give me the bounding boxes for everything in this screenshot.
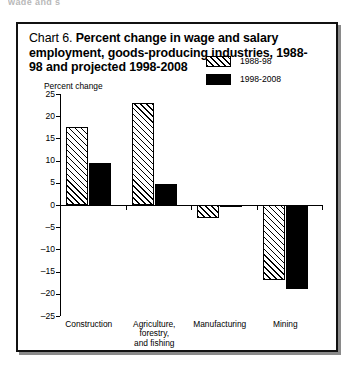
y-tick-mark bbox=[56, 272, 60, 273]
y-tick-mark bbox=[56, 138, 60, 139]
legend-item: 1998-2008 bbox=[206, 70, 281, 88]
y-tick-label: –20 bbox=[41, 288, 55, 298]
plot-area: 2520151050–5–10–15–20–25 bbox=[60, 94, 322, 316]
chart-legend: 1988-98 1998-2008 bbox=[206, 52, 281, 88]
bar-1998-2008 bbox=[286, 205, 308, 289]
bar-1998-2008 bbox=[89, 163, 111, 205]
y-tick-label: 20 bbox=[45, 111, 55, 121]
y-tick-label: –15 bbox=[41, 266, 55, 276]
y-tick-mark bbox=[56, 183, 60, 184]
legend-swatch-1988-98 bbox=[206, 56, 231, 67]
x-tick-mark bbox=[126, 205, 127, 210]
y-tick-label: –25 bbox=[41, 311, 55, 321]
bar-1988-98 bbox=[263, 205, 285, 280]
legend-label-1988-98: 1988-98 bbox=[240, 56, 272, 66]
y-tick-label: 0 bbox=[50, 200, 55, 210]
legend-item: 1988-98 bbox=[206, 52, 281, 70]
y-tick-label: 10 bbox=[45, 155, 55, 165]
bar-1988-98 bbox=[132, 103, 154, 205]
y-tick-label: 25 bbox=[45, 89, 55, 99]
y-tick-mark bbox=[56, 294, 60, 295]
y-tick-mark bbox=[56, 227, 60, 228]
y-tick-mark bbox=[56, 316, 60, 317]
y-tick-label: –5 bbox=[45, 222, 55, 232]
chart-figure-box: Chart 6. Percent change in wage and sala… bbox=[16, 22, 338, 352]
y-tick-label: 5 bbox=[50, 177, 55, 187]
x-tick-mark bbox=[322, 205, 323, 210]
legend-label-1998-2008: 1998-2008 bbox=[240, 74, 281, 84]
x-category-label: Mining bbox=[243, 320, 327, 329]
legend-swatch-1998-2008 bbox=[206, 74, 231, 85]
bar-1988-98 bbox=[66, 127, 88, 205]
x-tick-mark bbox=[191, 205, 192, 210]
x-tick-mark bbox=[257, 205, 258, 210]
y-tick-mark bbox=[56, 116, 60, 117]
bar-1998-2008 bbox=[155, 184, 177, 205]
y-tick-mark bbox=[56, 249, 60, 250]
scan-text-fragment: wage and s bbox=[8, 0, 128, 5]
x-tick-mark bbox=[60, 205, 61, 210]
y-tick-mark bbox=[56, 161, 60, 162]
chart-number: Chart 6. bbox=[29, 31, 76, 45]
bar-1988-98 bbox=[197, 205, 219, 218]
y-tick-mark bbox=[56, 94, 60, 95]
bar-1998-2008 bbox=[220, 205, 242, 207]
y-tick-label: 15 bbox=[45, 133, 55, 143]
y-tick-label: –10 bbox=[41, 244, 55, 254]
